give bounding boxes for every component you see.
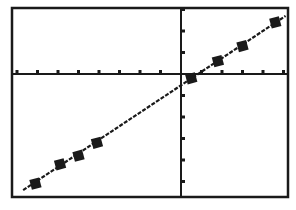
- y-tick: [181, 51, 185, 54]
- y-tick: [181, 137, 185, 140]
- x-tick: [118, 70, 121, 74]
- graph-frame: [12, 8, 288, 197]
- x-tick: [262, 70, 265, 74]
- x-tick: [77, 70, 80, 74]
- x-tick: [16, 70, 19, 74]
- x-tick: [57, 70, 60, 74]
- x-tick: [282, 70, 285, 74]
- x-tick: [159, 70, 162, 74]
- calculator-graph-screen: [0, 0, 296, 210]
- x-tick: [139, 70, 142, 74]
- y-tick: [181, 30, 185, 33]
- x-tick: [36, 70, 39, 74]
- x-tick: [221, 70, 224, 74]
- x-tick: [98, 70, 101, 74]
- y-tick: [181, 180, 185, 183]
- y-tick: [181, 116, 185, 119]
- y-tick: [181, 159, 185, 162]
- x-tick: [241, 70, 244, 74]
- y-tick: [181, 8, 185, 11]
- y-tick: [181, 94, 185, 97]
